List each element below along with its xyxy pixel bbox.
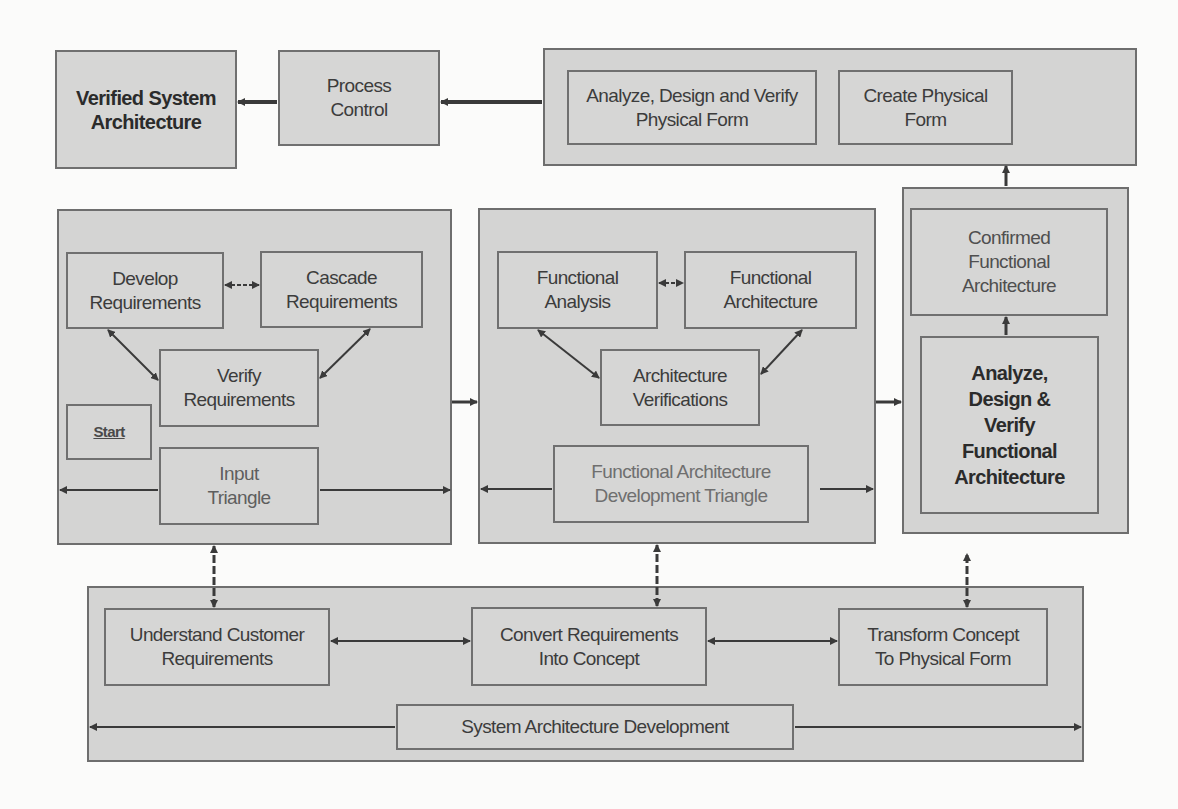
start-label: Start [93, 420, 124, 444]
system-architecture-development-label-box: System Architecture Development [396, 704, 794, 750]
start-link[interactable]: Start [66, 404, 152, 460]
understand-customer-requirements-box: Understand Customer Requirements [104, 608, 330, 686]
functional-architecture-box: Functional Architecture [684, 251, 857, 329]
functional-architecture-development-triangle-label-box: Functional Architecture Development Tria… [553, 445, 809, 523]
develop-requirements-box: Develop Requirements [66, 252, 224, 329]
create-physical-form-box: Create Physical Form [838, 70, 1013, 145]
verified-system-architecture-box: Verified System Architecture [55, 50, 237, 169]
verify-requirements-box: Verify Requirements [159, 349, 319, 427]
confirmed-functional-architecture-box: Confirmed Functional Architecture [910, 208, 1108, 316]
input-triangle-label-box: Input Triangle [159, 447, 319, 525]
analyze-design-verify-physical-form-box: Analyze, Design and Verify Physical Form [567, 70, 817, 145]
analyze-design-verify-functional-architecture-box: Analyze, Design & Verify Functional Arch… [920, 336, 1099, 514]
functional-analysis-box: Functional Analysis [497, 251, 658, 329]
architecture-verifications-box: Architecture Verifications [600, 349, 760, 426]
process-control-box: Process Control [278, 50, 440, 146]
cascade-requirements-box: Cascade Requirements [260, 251, 423, 328]
transform-concept-to-physical-form-box: Transform Concept To Physical Form [838, 608, 1048, 686]
convert-requirements-into-concept-box: Convert Requirements Into Concept [471, 607, 707, 686]
